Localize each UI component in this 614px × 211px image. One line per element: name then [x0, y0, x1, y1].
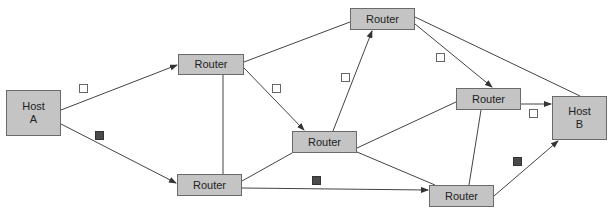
link-r3-r5 [357, 102, 456, 148]
link-r1-r3 [244, 68, 304, 130]
packet-dark [513, 157, 522, 166]
link-r3-r6 [357, 152, 435, 185]
link-hostA-r2 [61, 124, 176, 183]
link-r2-r3 [242, 153, 292, 181]
router-label: Router [193, 179, 226, 192]
router-top: Router [350, 8, 415, 30]
link-r4-r5 [415, 24, 492, 87]
host-a: Host A [6, 90, 61, 136]
router-top-left: Router [178, 54, 244, 75]
link-r1-r4 [244, 22, 350, 62]
packet-white [436, 53, 445, 62]
packet-white [341, 73, 350, 82]
packet-dark [95, 131, 104, 140]
link-r6-hostB [494, 141, 558, 196]
link-r3-r4 [333, 31, 372, 131]
packet-dark [312, 176, 321, 185]
router-bottom-right: Router [429, 185, 494, 207]
network-diagram: Host A Router Router Router Router Route… [0, 0, 614, 211]
packet-white [529, 109, 538, 118]
router-label: Router [308, 136, 341, 149]
packet-white [79, 84, 88, 93]
host-b-label: Host B [568, 105, 591, 131]
host-a-label: Host A [22, 100, 45, 126]
router-label: Router [366, 13, 399, 26]
router-bottom-left: Router [177, 174, 242, 196]
host-b: Host B [552, 96, 607, 140]
link-r5-r6 [469, 110, 481, 185]
network-links [0, 0, 614, 211]
link-r2-r6 [242, 188, 428, 190]
router-label: Router [445, 190, 478, 203]
router-label: Router [472, 93, 505, 106]
router-right: Router [456, 88, 521, 110]
router-center: Router [292, 131, 357, 153]
router-label: Router [194, 58, 227, 71]
packet-white [272, 84, 281, 93]
